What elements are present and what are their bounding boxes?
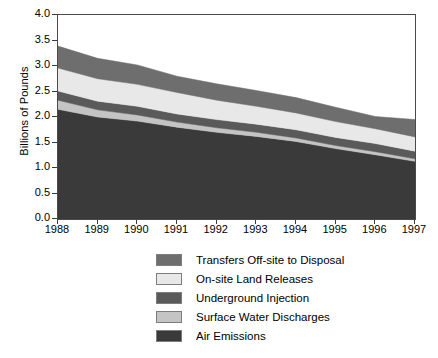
- y-tick-label: 1.5: [4, 136, 50, 147]
- chart-legend: Transfers Off-site to DisposalOn-site La…: [156, 250, 426, 345]
- legend-label: Air Emissions: [196, 330, 266, 342]
- plot-area: [57, 14, 416, 220]
- y-tick-label: 2.0: [4, 110, 50, 121]
- y-tick-label: 2.5: [4, 85, 50, 96]
- legend-swatch: [156, 273, 182, 285]
- legend-item: Underground Injection: [156, 288, 426, 307]
- y-tick-label: 1.0: [4, 161, 50, 172]
- legend-swatch: [156, 254, 182, 266]
- legend-swatch: [156, 330, 182, 342]
- legend-item: Surface Water Discharges: [156, 307, 426, 326]
- x-tick-label: 1997: [391, 224, 437, 235]
- legend-swatch: [156, 292, 182, 304]
- chart-figure: Billions of Pounds 0.00.51.01.52.02.53.0…: [0, 0, 438, 358]
- y-tick-label: 0.0: [4, 212, 50, 223]
- legend-item: On-site Land Releases: [156, 269, 426, 288]
- y-tick-label: 0.5: [4, 187, 50, 198]
- legend-label: Transfers Off-site to Disposal: [196, 254, 344, 266]
- legend-swatch: [156, 311, 182, 323]
- legend-label: On-site Land Releases: [196, 273, 313, 285]
- y-tick-label: 3.5: [4, 34, 50, 45]
- stacked-area-series: [58, 15, 415, 219]
- legend-item: Transfers Off-site to Disposal: [156, 250, 426, 269]
- y-tick-label: 4.0: [4, 8, 50, 19]
- legend-label: Surface Water Discharges: [196, 311, 330, 323]
- y-tick-label: 3.0: [4, 59, 50, 70]
- legend-label: Underground Injection: [196, 292, 309, 304]
- legend-item: Air Emissions: [156, 326, 426, 345]
